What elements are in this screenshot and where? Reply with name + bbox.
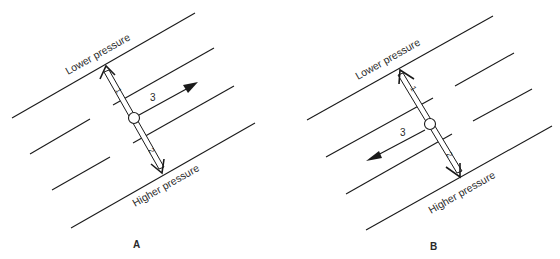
motion-3-label: 3 [400,127,406,138]
isobar-segment [30,119,90,154]
isobar-lower-pressure [307,16,493,120]
motion-arrow-shaft [139,87,190,115]
air-parcel-circle [129,113,140,124]
panel-label-a: A [133,239,140,250]
motion-arrow-3: 3 [139,82,198,115]
motion-arrowhead-icon [366,151,382,161]
motion-3-label: 3 [150,92,156,103]
isobar-segment [473,89,532,121]
isobar-segment [455,53,514,86]
isobar-higher-pressure [71,123,255,228]
isobar-segment [133,86,234,143]
higher-pressure-label: Higher pressure [426,168,497,215]
isobar-segment [113,48,214,105]
panel-b: 1 2 3 Lower pressure Higher pressure B [307,16,552,252]
higher-pressure-label: Higher pressure [130,161,201,208]
panel-a: 1 2 3 Lower pressure Higher pressure A [12,13,255,250]
motion-arrow-3: 3 [366,127,425,161]
lower-pressure-label: Lower pressure [63,31,132,77]
air-parcel-circle [425,119,436,130]
isobar-higher-pressure [366,126,552,230]
isobar-segment [52,157,110,190]
motion-arrowhead-icon [183,82,198,93]
isobar-lower-pressure [12,13,195,118]
panel-label-b: B [430,241,437,252]
pressure-gradient-diagram: 1 2 3 Lower pressure Higher pressure A 1 [0,0,560,259]
isobar-segment [346,134,452,194]
